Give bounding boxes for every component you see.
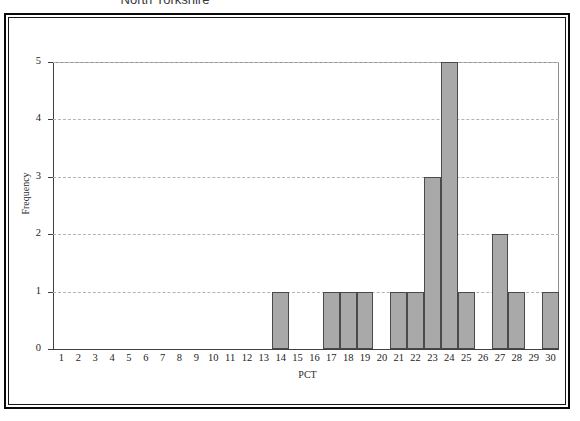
- x-tick-label: 22: [407, 352, 424, 363]
- x-tick-label: 2: [70, 352, 87, 363]
- x-tick-label: 6: [137, 352, 154, 363]
- x-tick-label: 16: [306, 352, 323, 363]
- y-tick-label: 2: [15, 227, 41, 238]
- chart-outer-frame: Frequency 012345 12345678910111213141516…: [4, 13, 570, 409]
- bar: [340, 292, 357, 349]
- x-tick-label: 26: [475, 352, 492, 363]
- x-tick-label: 17: [323, 352, 340, 363]
- bar: [424, 177, 441, 349]
- x-tick-label: 9: [188, 352, 205, 363]
- x-tick-label: 24: [441, 352, 458, 363]
- x-tick-label: 25: [458, 352, 475, 363]
- x-tick-label: 30: [542, 352, 559, 363]
- bar: [357, 292, 374, 349]
- x-tick-label: 11: [222, 352, 239, 363]
- bar: [272, 292, 289, 349]
- bar: [492, 234, 509, 349]
- y-tick-label: 3: [15, 170, 41, 181]
- y-tick-label: 5: [15, 55, 41, 66]
- plot-wrapper: Frequency 012345 12345678910111213141516…: [9, 18, 571, 410]
- x-tick-label: 20: [373, 352, 390, 363]
- bar: [458, 292, 475, 349]
- x-tick-label: 15: [289, 352, 306, 363]
- x-tick-label: 27: [492, 352, 509, 363]
- bar: [390, 292, 407, 349]
- bars-container: [53, 62, 559, 349]
- x-tick-label: 4: [104, 352, 121, 363]
- x-tick-label: 21: [390, 352, 407, 363]
- x-tick-label: 1: [53, 352, 70, 363]
- x-tick-label: 8: [171, 352, 188, 363]
- x-tick-label: 7: [154, 352, 171, 363]
- y-tick-label: 4: [15, 112, 41, 123]
- bar: [542, 292, 559, 349]
- x-tick-label: 10: [205, 352, 222, 363]
- y-tick-label: 0: [15, 342, 41, 353]
- bar: [323, 292, 340, 349]
- chart-inner-frame: Frequency 012345 12345678910111213141516…: [8, 17, 566, 405]
- bar: [441, 62, 458, 349]
- chart-title: North Yorkshire: [0, 0, 330, 8]
- x-tick-label: 19: [357, 352, 374, 363]
- x-axis-title: PCT: [53, 369, 562, 380]
- x-tick-label: 18: [340, 352, 357, 363]
- x-tick-label: 23: [424, 352, 441, 363]
- y-tick-label: 1: [15, 285, 41, 296]
- x-tick-label: 13: [255, 352, 272, 363]
- x-tick-label: 29: [525, 352, 542, 363]
- x-tick-label: 14: [272, 352, 289, 363]
- x-tick-label: 28: [508, 352, 525, 363]
- y-axis-title: Frequency: [20, 154, 31, 234]
- bar: [508, 292, 525, 349]
- x-tick-label: 3: [87, 352, 104, 363]
- x-tick-label: 12: [239, 352, 256, 363]
- bar: [407, 292, 424, 349]
- bars-layer: [53, 62, 559, 350]
- x-tick-label: 5: [120, 352, 137, 363]
